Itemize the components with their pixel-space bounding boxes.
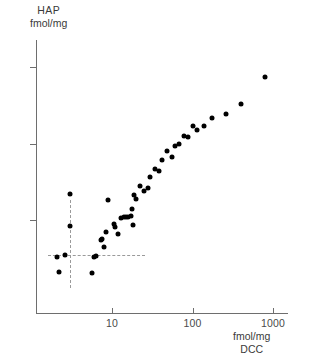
- vertical-cutoff-guide: [70, 200, 71, 287]
- x-tick-label-100: 100: [183, 318, 201, 329]
- data-point: [148, 174, 153, 179]
- x-tick-10: [112, 308, 113, 314]
- data-point: [145, 186, 150, 191]
- data-point: [93, 253, 98, 258]
- data-point: [164, 148, 169, 153]
- data-point: [130, 223, 135, 228]
- x-tick-label-1000: 1000: [261, 318, 285, 329]
- data-point: [129, 206, 134, 211]
- x-tick-1000: [273, 308, 274, 314]
- x-axis-line: [36, 313, 288, 314]
- x-tick-100: [193, 308, 194, 314]
- y-tick-10: [30, 220, 36, 221]
- data-point: [102, 245, 107, 250]
- y-axis-line: [36, 40, 37, 314]
- x-axis-title: fmol/mg DCC: [233, 330, 270, 356]
- data-point: [106, 198, 111, 203]
- y-tick-100: [30, 144, 36, 145]
- data-point: [67, 191, 72, 196]
- data-point: [104, 230, 109, 235]
- data-point: [128, 214, 133, 219]
- data-point: [134, 196, 139, 201]
- data-point: [169, 155, 174, 160]
- y-axis-title-line2: fmol/mg: [30, 17, 67, 30]
- data-point: [116, 231, 121, 236]
- data-point: [137, 183, 142, 188]
- data-point: [62, 252, 67, 257]
- data-point: [100, 237, 105, 242]
- data-point: [238, 101, 243, 106]
- data-point: [113, 225, 118, 230]
- x-axis-title-line1: fmol/mg: [233, 330, 270, 343]
- data-point: [156, 168, 161, 173]
- data-point: [186, 134, 191, 139]
- data-point: [67, 224, 72, 229]
- data-point: [55, 254, 60, 259]
- data-point: [202, 124, 207, 129]
- data-point: [89, 271, 94, 276]
- x-axis-title-line2: DCC: [233, 343, 270, 356]
- y-axis-title-line1: HAP: [30, 4, 67, 17]
- data-point: [263, 75, 268, 80]
- data-point: [210, 116, 215, 121]
- scatter-plot-figure: HAP fmol/mg 101001000101001000 fmol/mg D…: [0, 0, 311, 364]
- data-point: [223, 112, 228, 117]
- y-tick-1000: [30, 67, 36, 68]
- data-point: [160, 157, 165, 162]
- x-tick-label-10: 10: [106, 318, 118, 329]
- data-point: [177, 141, 182, 146]
- data-point: [195, 127, 200, 132]
- y-axis-title: HAP fmol/mg: [30, 4, 67, 30]
- data-point: [57, 269, 62, 274]
